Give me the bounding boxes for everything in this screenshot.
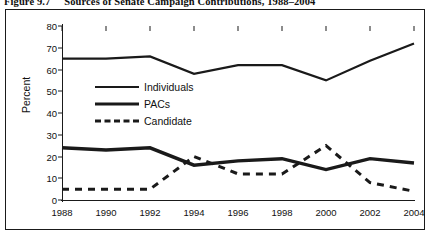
x-tick-label: 1998 [271, 207, 292, 218]
y-tick-label: 20 [46, 151, 57, 162]
figure-title: Sources of Senate Campaign Contributions… [64, 0, 315, 7]
x-tick-label: 1990 [95, 207, 116, 218]
figure-number: Figure 9.7 [4, 0, 50, 7]
legend-entry-pacs: PACs [95, 95, 194, 112]
legend-entry-individuals: Individuals [95, 78, 194, 95]
y-axis-label: Percent [20, 77, 32, 113]
legend-label-pacs: PACs [144, 98, 170, 110]
y-tick-label: 80 [46, 21, 57, 32]
legend-swatch-candidate [95, 115, 139, 127]
x-tick-label: 1988 [51, 207, 72, 218]
series-line-pacs [62, 148, 414, 170]
figure-container: Figure 9.7Sources of Senate Campaign Con… [0, 0, 431, 234]
legend-swatch-individuals [95, 81, 139, 93]
x-axis-line [61, 200, 415, 201]
legend-label-individuals: Individuals [144, 81, 194, 93]
x-tick-label: 2000 [315, 207, 336, 218]
y-tick-label: 10 [46, 173, 57, 184]
x-tick-label: 1996 [227, 207, 248, 218]
x-tick-label: 1994 [183, 207, 204, 218]
x-tick-label: 1992 [139, 207, 160, 218]
legend-entry-candidate: Candidate [95, 112, 194, 129]
y-tick-label: 40 [46, 108, 57, 119]
legend-swatch-pacs [95, 98, 139, 110]
y-tick-label: 30 [46, 129, 57, 140]
y-tick-label: 60 [46, 64, 57, 75]
x-tick-label: 2002 [359, 207, 380, 218]
y-tick-label: 70 [46, 42, 57, 53]
y-tick-label: 0 [52, 195, 57, 206]
y-tick-label: 50 [46, 86, 57, 97]
legend-label-candidate: Candidate [144, 115, 192, 127]
series-line-candidate [62, 146, 414, 192]
x-tick-label: 2004 [403, 207, 424, 218]
figure-caption: Figure 9.7Sources of Senate Campaign Con… [4, 0, 428, 9]
chart-legend: Individuals PACs Candidate [95, 78, 194, 129]
series-line-individuals [62, 43, 414, 80]
